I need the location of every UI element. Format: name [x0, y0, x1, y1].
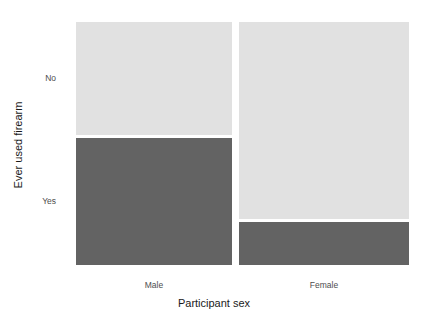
- y-axis-title: Ever used firearm: [12, 102, 23, 189]
- x-tick-label-female: Female: [289, 281, 359, 290]
- mosaic-column-male: [76, 22, 232, 265]
- x-tick-label-male: Male: [119, 281, 189, 290]
- mosaic-plot-figure: Male Female No Yes Participant sex Ever …: [0, 0, 428, 319]
- y-axis-title-container: Ever used firearm: [10, 24, 26, 267]
- mosaic-column-female: [239, 22, 409, 265]
- mosaic-tile-female-no[interactable]: [239, 22, 409, 219]
- x-axis-title: Participant sex: [0, 298, 428, 309]
- mosaic-tile-female-yes[interactable]: [239, 222, 409, 265]
- mosaic-tile-male-no[interactable]: [76, 22, 232, 135]
- mosaic-tile-male-yes[interactable]: [76, 138, 232, 265]
- plot-panel: [76, 22, 409, 265]
